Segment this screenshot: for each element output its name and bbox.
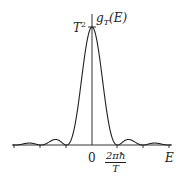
peak-label: T2 — [73, 21, 86, 34]
y-axis-label: gT(E) — [96, 12, 127, 27]
x-axis-label: E — [165, 152, 174, 164]
tick-label-2pi-hbar-over-T: 2πħ T — [105, 151, 126, 174]
origin-label: 0 — [88, 152, 96, 164]
